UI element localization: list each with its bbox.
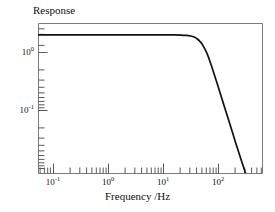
y-tick-label-1e-1: 10-1 — [5, 105, 34, 115]
y-tick-exp-1e-1: -1 — [29, 103, 34, 110]
y-tick-label-1e0: 100 — [8, 47, 34, 57]
plot-frame — [39, 24, 263, 174]
chart-canvas — [0, 0, 275, 212]
x-axis-label: Frequency /Hz — [0, 190, 275, 203]
x-tick-label-1e2: 102 — [212, 177, 224, 187]
x-tick-exp-1e0: 0 — [111, 175, 114, 182]
response-curve-line — [38, 35, 262, 212]
x-tick-label-1e-1: 10-1 — [46, 177, 60, 187]
x-axis-ticks — [40, 164, 261, 174]
y-axis-ticks — [39, 29, 48, 169]
x-tick-exp-1e2: 2 — [221, 175, 224, 182]
figure-container: Response — [0, 0, 275, 212]
y-tick-exp-1e0: 0 — [31, 45, 34, 52]
x-tick-exp-1e1: 1 — [166, 175, 169, 182]
x-tick-label-1e1: 101 — [157, 177, 169, 187]
x-tick-exp-1e-1: -1 — [55, 175, 60, 182]
x-tick-label-1e0: 100 — [102, 177, 114, 187]
